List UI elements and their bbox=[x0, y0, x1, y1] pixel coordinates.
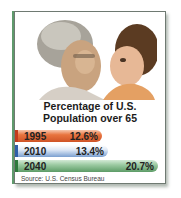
photo-illustration-icon bbox=[25, 14, 157, 100]
bar-cap bbox=[15, 130, 18, 142]
bar-value: 20.7% bbox=[126, 161, 154, 172]
photo-grandmother-and-child bbox=[25, 14, 157, 100]
chart-title-line1: Percentage of U.S. bbox=[15, 100, 165, 112]
bar-value: 12.6% bbox=[70, 131, 98, 142]
source-note: Source: U.S. Census Bureau bbox=[21, 175, 104, 182]
chart-title-line2: Population over 65 bbox=[15, 112, 165, 124]
bar-2010: 2010 13.4% bbox=[15, 145, 108, 157]
bar-value: 13.4% bbox=[76, 146, 104, 157]
infographic-card: Percentage of U.S. Population over 65 19… bbox=[14, 11, 166, 184]
bar-1995: 1995 12.6% bbox=[15, 130, 102, 142]
bar-year: 2040 bbox=[24, 161, 46, 172]
chart-title: Percentage of U.S. Population over 65 bbox=[15, 100, 165, 124]
bar-year: 2010 bbox=[24, 146, 46, 157]
bar-2040: 2040 20.7% bbox=[15, 160, 158, 172]
bar-year: 1995 bbox=[24, 131, 46, 142]
bar-cap bbox=[15, 145, 18, 157]
bar-cap bbox=[15, 160, 18, 172]
